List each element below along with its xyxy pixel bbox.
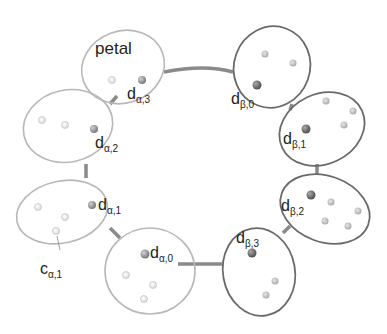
d-point-beta-0 [253,81,262,90]
connector-b3-b2 [283,226,290,233]
petal-title-label: petal [95,39,132,58]
petal-beta-3 [216,222,302,321]
c-point-alpha-1 [53,228,60,235]
petal-alpha-2 [16,81,119,170]
d-point-beta-3 [248,249,257,258]
petal-beta-1 [267,79,376,180]
label-d-beta-1: dβ,1 [283,130,306,150]
d-point-alpha-0 [141,250,150,259]
label-c-alpha-1: cα,1 [40,260,63,280]
petal-alpha-0 [105,228,195,314]
d-point-beta-2 [307,191,316,200]
label-d-alpha-0: dα,0 [150,244,173,264]
label-d-beta-2: dβ,2 [281,197,304,217]
d-point-beta-1 [302,125,311,134]
petal-alpha-3 [71,19,175,115]
d-point-alpha-3 [138,76,146,84]
label-d-beta-0: dβ,0 [231,90,254,110]
label-d-beta-3: dβ,3 [236,229,259,249]
d-point-alpha-2 [90,125,98,133]
d-point-alpha-1 [88,201,96,209]
connector-a1-a0 [110,228,120,238]
connector-a3-b0 [164,68,233,72]
label-d-alpha-1: dα,1 [98,196,121,216]
ring-connectors [86,68,317,264]
petal-ring-diagram: petal dα,3 dα,2 dα,1 cα,1 dα,0 dβ,0 dβ,1… [0,0,387,334]
